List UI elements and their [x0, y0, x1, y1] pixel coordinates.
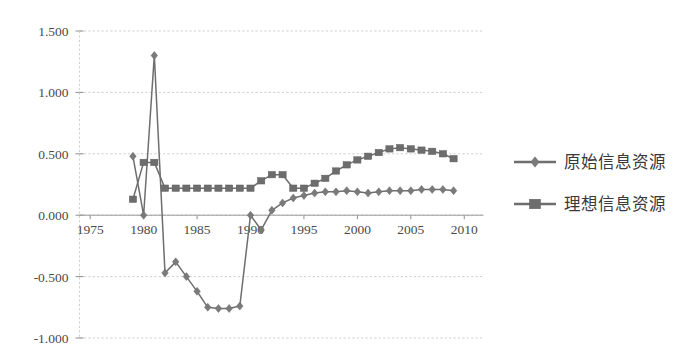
data-point	[140, 159, 147, 165]
data-point	[172, 185, 179, 191]
data-point	[418, 185, 425, 193]
data-point	[332, 168, 339, 174]
data-point	[204, 185, 211, 191]
data-point	[193, 185, 200, 191]
data-point	[161, 185, 168, 191]
data-point	[365, 189, 372, 197]
x-tick-label-2000: 2000	[344, 222, 371, 237]
line-chart: 1.5001.0000.5000.000-0.500-1.000 1975198…	[0, 0, 679, 363]
x-axis-tick-labels: 19751980198519901995200020052010	[77, 222, 478, 237]
data-point	[311, 189, 318, 197]
y-tick-label-1.500: 1.500	[38, 24, 69, 39]
y-axis-tick-labels: 1.5001.0000.5000.000-0.500-1.000	[34, 24, 69, 346]
data-point	[386, 146, 393, 152]
data-point	[407, 146, 414, 152]
data-point	[418, 147, 425, 153]
series-markers-group	[129, 52, 457, 313]
data-point	[375, 188, 382, 196]
data-point	[279, 171, 286, 177]
data-point	[375, 149, 382, 155]
x-tick-label-1995: 1995	[290, 222, 317, 237]
data-point	[247, 185, 254, 191]
x-tick-label-1980: 1980	[130, 222, 157, 237]
data-point	[450, 156, 457, 162]
data-point	[237, 302, 244, 310]
y-tick-label-1.000: 1.000	[38, 85, 69, 100]
data-point	[343, 187, 350, 195]
legend-marker-diamond	[531, 157, 539, 167]
data-point	[268, 171, 275, 177]
data-point	[322, 175, 329, 181]
data-point	[311, 180, 318, 186]
series-lines-group	[133, 56, 454, 309]
data-point	[130, 152, 137, 160]
data-point	[408, 187, 415, 195]
data-point	[354, 188, 361, 196]
x-tick-label-1975: 1975	[77, 222, 104, 237]
y-tick-label--0.500: -0.500	[34, 270, 69, 285]
data-point	[290, 194, 297, 202]
data-point	[215, 305, 222, 313]
x-tick-label-1985: 1985	[184, 222, 211, 237]
chart-container: 1.5001.0000.5000.000-0.500-1.000 1975198…	[0, 0, 679, 363]
gridlines-group	[80, 31, 484, 338]
data-point	[322, 188, 329, 196]
data-point	[290, 185, 297, 191]
data-point	[343, 162, 350, 168]
data-point	[354, 157, 361, 163]
data-point	[129, 196, 136, 202]
data-point	[300, 185, 307, 191]
legend-marker-square	[530, 199, 541, 209]
data-point	[215, 185, 222, 191]
data-point	[258, 178, 265, 184]
x-tick-label-2005: 2005	[397, 222, 424, 237]
data-point	[429, 148, 436, 154]
series-line-1	[133, 56, 454, 309]
y-tick-label--1.000: -1.000	[34, 331, 69, 346]
data-point	[301, 192, 308, 200]
data-point	[183, 185, 190, 191]
legend-label-2: 理想信息资源	[564, 195, 666, 214]
x-tick-label-2010: 2010	[451, 222, 478, 237]
data-point	[450, 187, 457, 195]
data-point	[333, 188, 340, 196]
chart-legend: 原始信息资源理想信息资源	[514, 153, 666, 214]
axes-group	[80, 31, 484, 338]
legend-label-1: 原始信息资源	[564, 153, 666, 172]
y-tick-label-0.500: 0.500	[38, 147, 69, 162]
data-point	[226, 185, 233, 191]
data-point	[386, 187, 393, 195]
data-point	[140, 211, 147, 219]
data-point	[226, 305, 233, 313]
data-point	[236, 185, 243, 191]
data-point	[429, 185, 436, 193]
data-point	[440, 185, 447, 193]
data-point	[439, 151, 446, 157]
data-point	[397, 144, 404, 150]
data-point	[364, 153, 371, 159]
data-point	[279, 199, 286, 207]
data-point	[151, 52, 158, 60]
data-point	[151, 159, 158, 165]
y-tick-label-0.000: 0.000	[38, 208, 69, 223]
data-point	[397, 187, 404, 195]
